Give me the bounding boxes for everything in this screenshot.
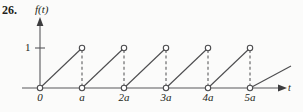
open-marker bbox=[205, 85, 210, 90]
y-axis bbox=[37, 17, 44, 88]
ramp-segment-partial bbox=[250, 66, 291, 88]
open-marker bbox=[121, 85, 126, 90]
open-marker bbox=[163, 85, 168, 90]
open-marker bbox=[163, 45, 168, 50]
open-marker bbox=[247, 45, 252, 50]
open-marker bbox=[79, 45, 84, 50]
x-tick-label-2a: 2a bbox=[119, 92, 130, 103]
x-axis-label: t bbox=[288, 83, 291, 93]
open-marker bbox=[79, 85, 84, 90]
x-tick-label-0: 0 bbox=[37, 92, 43, 103]
open-marker bbox=[205, 45, 210, 50]
x-tick-label-a: a bbox=[79, 92, 85, 103]
ramp-segment bbox=[124, 48, 166, 88]
discontinuity-drops bbox=[82, 50, 250, 87]
x-tick-label-3a: 3a bbox=[161, 92, 172, 103]
open-marker bbox=[247, 85, 252, 90]
ramp-segment bbox=[166, 48, 208, 88]
y-axis-label: f(t) bbox=[35, 4, 48, 15]
open-marker bbox=[37, 85, 42, 90]
x-tick-label-4a: 4a bbox=[203, 92, 214, 103]
ramp-segment bbox=[208, 48, 250, 88]
open-marker bbox=[121, 45, 126, 50]
problem-number: 26. bbox=[2, 4, 17, 16]
ramp-segment bbox=[40, 48, 82, 88]
x-tick-label-5a: 5a bbox=[245, 92, 256, 103]
figure-container: 26. f(t) t 1 0 a 2a 3a 4a 5a bbox=[0, 0, 303, 112]
sawtooth-plot bbox=[0, 0, 303, 112]
ramp-segment bbox=[82, 48, 124, 88]
y-tick-label: 1 bbox=[25, 42, 31, 53]
